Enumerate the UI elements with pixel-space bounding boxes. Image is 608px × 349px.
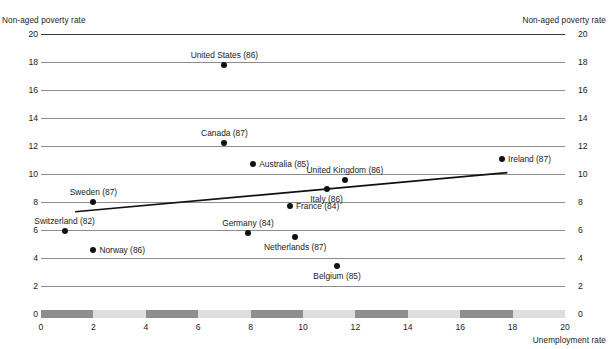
data-point-label: Canada (87): [201, 129, 248, 137]
data-point: [292, 234, 298, 240]
y-tick-right-20: 20: [578, 30, 598, 39]
y-tick-left-2: 2: [18, 282, 38, 291]
data-point: [62, 228, 68, 234]
y-tick-left-14: 14: [18, 114, 38, 123]
y-tick-right-2: 2: [578, 282, 598, 291]
y-tick-right-14: 14: [578, 114, 598, 123]
x-axis-band: [41, 310, 565, 318]
x-band-segment-5: [303, 310, 355, 318]
data-point: [334, 263, 340, 269]
x-tick-10: 10: [298, 322, 308, 332]
x-tick-12: 12: [351, 322, 361, 332]
y-axis-title-right: Non-aged poverty rate: [522, 16, 606, 25]
x-band-segment-7: [408, 310, 460, 318]
x-band-segment-2: [146, 310, 198, 318]
data-point: [342, 177, 348, 183]
scatter-chart: Non-aged poverty rate Non-aged poverty r…: [0, 0, 608, 349]
x-band-segment-4: [251, 310, 303, 318]
x-band-segment-8: [460, 310, 512, 318]
x-band-segment-0: [41, 310, 93, 318]
data-point: [90, 247, 96, 253]
data-point-label: United States (86): [191, 50, 259, 58]
data-point-label: Sweden (87): [70, 188, 118, 196]
data-point-label: Belgium (85): [313, 272, 360, 280]
y-tick-right-4: 4: [578, 254, 598, 263]
x-tick-20: 20: [560, 322, 570, 332]
y-tick-left-8: 8: [18, 198, 38, 207]
data-point: [221, 140, 227, 146]
y-tick-left-0: 0: [18, 310, 38, 319]
y-tick-left-4: 4: [18, 254, 38, 263]
y-tick-right-10: 10: [578, 170, 598, 179]
data-point: [245, 230, 251, 236]
x-tick-2: 2: [91, 322, 96, 332]
x-tick-6: 6: [196, 322, 201, 332]
data-point-label: Australia (85): [259, 160, 309, 168]
data-point: [324, 186, 330, 192]
y-tick-left-6: 6: [18, 226, 38, 235]
data-point: [221, 62, 227, 68]
y-axis-title-left: Non-aged poverty rate: [2, 16, 86, 25]
y-tick-right-0: 0: [578, 310, 598, 319]
data-point: [250, 161, 256, 167]
data-point: [90, 199, 96, 205]
y-tick-left-16: 16: [18, 86, 38, 95]
x-tick-16: 16: [455, 322, 465, 332]
y-tick-right-12: 12: [578, 142, 598, 151]
data-point-label: Switzerland (82): [34, 217, 95, 225]
trendline: [41, 34, 565, 314]
x-band-segment-1: [93, 310, 145, 318]
data-point-label: Norway (86): [99, 245, 145, 253]
y-tick-right-6: 6: [578, 226, 598, 235]
x-tick-0: 0: [39, 322, 44, 332]
data-point-label: Ireland (87): [508, 154, 551, 162]
x-tick-14: 14: [403, 322, 413, 332]
y-tick-left-20: 20: [18, 30, 38, 39]
data-point-label: United Kingdom (86): [307, 165, 384, 173]
data-point: [287, 203, 293, 209]
data-point-label: Germany (84): [222, 218, 274, 226]
y-tick-right-16: 16: [578, 86, 598, 95]
x-band-segment-6: [355, 310, 407, 318]
y-tick-left-18: 18: [18, 58, 38, 67]
x-band-segment-3: [198, 310, 250, 318]
data-point-label: France (84): [296, 202, 339, 210]
x-band-segment-9: [513, 310, 565, 318]
y-tick-left-10: 10: [18, 170, 38, 179]
data-point: [499, 156, 505, 162]
x-tick-18: 18: [508, 322, 518, 332]
y-tick-left-12: 12: [18, 142, 38, 151]
x-axis-title: Unemployment rate: [533, 336, 606, 345]
data-point-label: Netherlands (87): [264, 243, 326, 251]
y-tick-right-8: 8: [578, 198, 598, 207]
plot-area: United States (86)Canada (87)Australia (…: [41, 34, 565, 314]
x-tick-4: 4: [143, 322, 148, 332]
x-tick-8: 8: [248, 322, 253, 332]
y-tick-right-18: 18: [578, 58, 598, 67]
